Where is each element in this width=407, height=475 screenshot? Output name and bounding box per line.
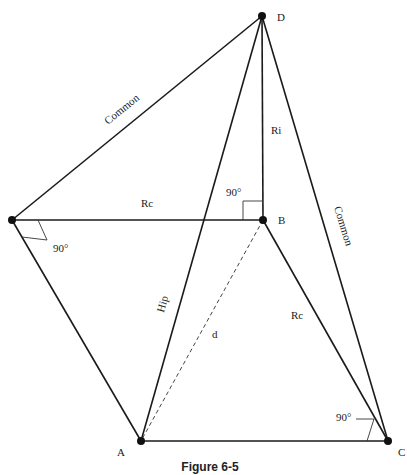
- edge-common-right: [262, 16, 388, 441]
- label-b: B: [278, 214, 285, 226]
- vertex-e: [8, 216, 16, 224]
- figure-diagram: D B A C Common Common Ri Rc Rc Hip d 90°…: [0, 0, 407, 475]
- label-d-diagonal: d: [212, 328, 218, 340]
- label-ri: Ri: [271, 124, 281, 136]
- figure-caption: Figure 6-5: [181, 460, 239, 474]
- edge-rc-bottom: [263, 220, 388, 441]
- label-rc-top: Rc: [141, 197, 153, 209]
- right-angle-marker-e: [22, 220, 47, 240]
- edge-left-side: [12, 220, 141, 441]
- edge-common-left: [12, 16, 262, 220]
- label-rc-bottom: Rc: [291, 309, 303, 321]
- edge-d-dashed: [141, 220, 263, 441]
- edge-hip: [141, 16, 262, 441]
- right-angle-marker-c: [356, 419, 374, 441]
- vertex-a: [137, 437, 145, 445]
- vertex-b: [259, 216, 267, 224]
- angle-label-c: 90°: [336, 411, 351, 423]
- label-a: A: [117, 446, 125, 458]
- angle-label-b: 90°: [226, 186, 241, 198]
- edge-ri: [262, 16, 263, 220]
- label-hip: Hip: [154, 294, 170, 314]
- vertex-c: [384, 437, 392, 445]
- right-angle-marker-b: [243, 201, 262, 220]
- label-common-left: Common: [102, 91, 142, 126]
- angle-label-e: 90°: [53, 242, 68, 254]
- label-d: D: [277, 11, 285, 23]
- label-common-right: Common: [332, 204, 356, 247]
- label-c: C: [398, 446, 405, 458]
- vertex-d: [258, 12, 266, 20]
